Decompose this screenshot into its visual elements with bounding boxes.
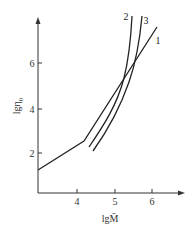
curve-label-3: 3 [144,15,149,26]
curve-1 [38,27,157,170]
y-axis-label-sub: 0 [17,97,25,101]
y-axis-label-main: lgη [11,101,22,114]
x-axis-arrow-icon [178,191,185,196]
chart: 4 5 6 2 4 6 lgM̄ lgη0 2 3 1 [0,0,192,229]
y-axis-label: lgη0 [11,97,25,114]
y-tick-label: 2 [30,148,35,159]
curve-2 [89,16,132,147]
y-tick-label: 6 [30,58,35,69]
x-axis-label: lgM̄ [102,213,119,224]
x-tick-label: 5 [113,196,118,207]
y-axis-arrow-icon [36,17,41,24]
curve-label-2: 2 [124,11,129,22]
x-tick-label: 4 [75,196,80,207]
curve-label-1: 1 [156,35,161,46]
y-tick-label: 4 [30,104,35,115]
y-axis-label-group: lgη0 [11,97,25,114]
x-tick-label: 6 [150,196,155,207]
